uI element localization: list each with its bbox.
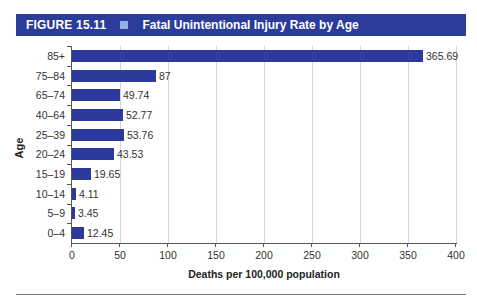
x-axis-line: [71, 243, 457, 244]
bar: [72, 70, 156, 82]
bar: [72, 148, 114, 160]
x-tick: [167, 243, 168, 247]
bar: [72, 207, 75, 219]
value-label: 52.77: [126, 109, 152, 121]
x-tick: [455, 243, 456, 247]
category-label: 0–4: [10, 227, 65, 239]
category-label: 40–64: [10, 109, 65, 121]
y-tick: [67, 125, 71, 126]
x-tick-label: 150: [196, 249, 236, 261]
y-tick: [67, 105, 71, 106]
bar: [72, 129, 124, 141]
x-tick: [263, 243, 264, 247]
value-label: 365.69: [426, 50, 458, 62]
x-tick: [407, 243, 408, 247]
gridline: [360, 46, 361, 243]
x-tick-label: 250: [292, 249, 332, 261]
value-label: 4.11: [79, 188, 99, 200]
x-tick: [311, 243, 312, 247]
value-label: 87: [159, 70, 171, 82]
gridline: [216, 46, 217, 243]
category-label: 15–19: [10, 168, 65, 180]
category-label: 5–9: [10, 207, 65, 219]
category-label: 65–74: [10, 89, 65, 101]
bottom-rule: [16, 294, 466, 295]
x-tick: [119, 243, 120, 247]
y-tick: [67, 204, 71, 205]
x-tick: [71, 243, 72, 247]
x-tick: [215, 243, 216, 247]
value-label: 53.76: [127, 129, 153, 141]
category-label: 20–24: [10, 148, 65, 160]
y-tick: [67, 184, 71, 185]
category-label: 75–84: [10, 70, 65, 82]
x-axis-title: Deaths per 100,000 population: [72, 268, 456, 280]
category-label: 85+: [10, 50, 65, 62]
y-tick: [67, 145, 71, 146]
x-tick-label: 300: [340, 249, 380, 261]
x-tick-label: 50: [100, 249, 140, 261]
x-tick-label: 200: [244, 249, 284, 261]
x-tick-label: 100: [148, 249, 188, 261]
bar: [72, 227, 84, 239]
bar: [72, 188, 76, 200]
category-label: 25–39: [10, 129, 65, 141]
gridline: [408, 46, 409, 243]
x-tick-label: 0: [52, 249, 92, 261]
gridline: [312, 46, 313, 243]
value-label: 43.53: [117, 148, 143, 160]
gridline: [456, 46, 457, 243]
value-label: 12.45: [87, 227, 113, 239]
y-tick: [67, 66, 71, 67]
category-label: 10–14: [10, 188, 65, 200]
y-tick: [67, 46, 71, 47]
x-tick-label: 350: [388, 249, 428, 261]
x-tick: [359, 243, 360, 247]
value-label: 3.45: [78, 207, 98, 219]
value-label: 49.74: [123, 89, 149, 101]
y-tick: [67, 164, 71, 165]
bar: [72, 89, 120, 101]
y-tick: [67, 85, 71, 86]
bar: [72, 50, 423, 62]
bar-chart: Age Deaths per 100,000 population 050100…: [0, 0, 477, 299]
gridline: [264, 46, 265, 243]
bar: [72, 109, 123, 121]
y-tick: [67, 223, 71, 224]
value-label: 19.65: [94, 168, 120, 180]
x-tick-label: 400: [436, 249, 476, 261]
bar: [72, 168, 91, 180]
